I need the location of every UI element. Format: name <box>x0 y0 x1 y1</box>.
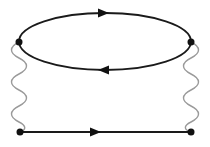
vertex-bottom-right <box>188 129 195 136</box>
vertex-top-left <box>16 39 23 46</box>
loop-lower-arrow-icon <box>98 66 109 75</box>
vertex-top-right <box>188 39 195 46</box>
photon-line-right <box>184 42 199 132</box>
photon-line-left <box>12 42 27 132</box>
bottom-line-arrow-icon <box>90 128 101 137</box>
feynman-diagram <box>0 0 210 147</box>
vertex-bottom-left <box>17 129 24 136</box>
loop-upper-arrow-icon <box>98 9 109 18</box>
fermion-loop <box>19 13 191 70</box>
